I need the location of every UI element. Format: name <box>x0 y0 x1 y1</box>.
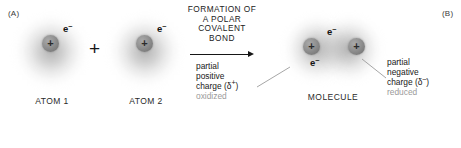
nucleus-charge-label: + <box>47 38 53 49</box>
panel-label-a: (A) <box>8 9 19 18</box>
reaction-heading-line-4: BOND <box>177 34 267 44</box>
electron-charge-glyph: – <box>315 55 319 64</box>
electron-charge-glyph: – <box>162 21 166 30</box>
nucleus-molecule-right: + <box>348 38 365 55</box>
panel-label-b: (B) <box>442 9 453 18</box>
annotation-left-note: oxidized <box>196 92 238 102</box>
reaction-arrow-icon <box>190 51 254 57</box>
nucleus-charge-label: + <box>353 41 359 52</box>
electron-label-molecule-upper: e– <box>327 27 336 37</box>
nucleus-molecule-left: + <box>303 38 320 55</box>
arrow-shaft <box>190 54 248 55</box>
electron-charge-glyph: – <box>332 24 336 33</box>
electron-label-atom-1: e– <box>63 24 72 34</box>
annotation-partial-negative: partial negative charge (δ–) reduced <box>387 58 429 98</box>
nucleus-charge-label: + <box>308 41 314 52</box>
electron-label-atom-2: e– <box>157 24 166 34</box>
figure-polar-covalent-bond: (A) (B) + e– ATOM 1 + + e– ATOM 2 FORMAT… <box>0 0 461 148</box>
nucleus-atom-2: + <box>136 35 153 52</box>
charge-prefix: charge (δ <box>387 77 422 87</box>
arrow-head <box>248 51 254 57</box>
annotation-right-note: reduced <box>387 88 429 98</box>
plus-operator: + <box>89 39 100 58</box>
nucleus-charge-label: + <box>141 38 147 49</box>
charge-suffix: ) <box>426 77 429 87</box>
annotation-partial-positive: partial positive charge (δ+) oxidized <box>196 62 238 102</box>
nucleus-atom-1: + <box>42 35 59 52</box>
caption-molecule: MOLECULE <box>297 92 369 102</box>
caption-atom-2: ATOM 2 <box>110 96 182 106</box>
charge-suffix: ) <box>235 81 238 91</box>
caption-atom-1: ATOM 1 <box>16 96 88 106</box>
charge-prefix: charge (δ <box>196 81 231 91</box>
electron-label-molecule-lower: e– <box>310 58 319 68</box>
electron-charge-glyph: – <box>68 21 72 30</box>
reaction-heading: FORMATION OF A POLAR COVALENT BOND <box>177 5 267 43</box>
